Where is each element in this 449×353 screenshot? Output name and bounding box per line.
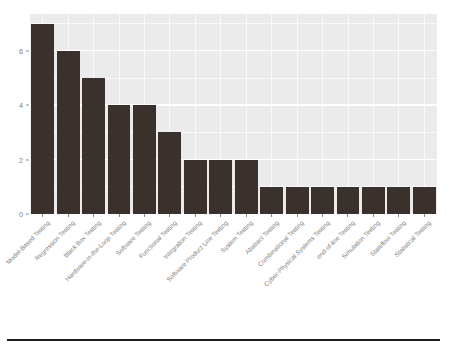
bar[interactable] bbox=[235, 160, 258, 214]
bar[interactable] bbox=[31, 24, 54, 214]
x-tick-mark bbox=[424, 214, 425, 217]
bar[interactable] bbox=[108, 105, 131, 214]
x-tick-mark bbox=[271, 214, 272, 217]
plot-panel bbox=[30, 14, 437, 214]
bars-layer bbox=[30, 14, 437, 214]
bar[interactable] bbox=[260, 187, 283, 214]
x-axis: Model-Based TestingRegression TestingBla… bbox=[30, 214, 437, 344]
bar[interactable] bbox=[337, 187, 360, 214]
y-tick-label: 2 bbox=[19, 155, 23, 164]
x-tick-mark bbox=[42, 214, 43, 217]
y-tick-label: 0 bbox=[19, 210, 23, 219]
x-tick-mark bbox=[220, 214, 221, 217]
x-tick-mark bbox=[297, 214, 298, 217]
y-tick-mark bbox=[26, 159, 29, 160]
bar[interactable] bbox=[209, 160, 232, 214]
x-tick-mark bbox=[322, 214, 323, 217]
y-axis: 0246 bbox=[0, 14, 30, 214]
x-tick-mark bbox=[169, 214, 170, 217]
bar[interactable] bbox=[311, 187, 334, 214]
bar[interactable] bbox=[82, 78, 105, 214]
x-tick-mark bbox=[246, 214, 247, 217]
bar[interactable] bbox=[57, 51, 80, 214]
x-tick-mark bbox=[144, 214, 145, 217]
y-tick-mark bbox=[26, 105, 29, 106]
x-tick-mark bbox=[119, 214, 120, 217]
x-tick-mark bbox=[373, 214, 374, 217]
y-tick-label: 4 bbox=[19, 101, 23, 110]
x-tick-mark bbox=[347, 214, 348, 217]
x-tick-mark bbox=[195, 214, 196, 217]
bar[interactable] bbox=[413, 187, 436, 214]
bar[interactable] bbox=[362, 187, 385, 214]
x-tick-mark bbox=[93, 214, 94, 217]
bottom-horizontal-rule bbox=[7, 339, 440, 341]
bar-chart-figure: 0246 Model-Based TestingRegression Testi… bbox=[0, 0, 449, 353]
bar[interactable] bbox=[133, 105, 156, 214]
bar[interactable] bbox=[158, 132, 181, 214]
y-tick-mark bbox=[26, 50, 29, 51]
x-tick-mark bbox=[398, 214, 399, 217]
bar[interactable] bbox=[184, 160, 207, 214]
x-tick-mark bbox=[68, 214, 69, 217]
y-tick-label: 6 bbox=[19, 46, 23, 55]
y-tick-mark bbox=[26, 214, 29, 215]
bar[interactable] bbox=[387, 187, 410, 214]
bar[interactable] bbox=[286, 187, 309, 214]
